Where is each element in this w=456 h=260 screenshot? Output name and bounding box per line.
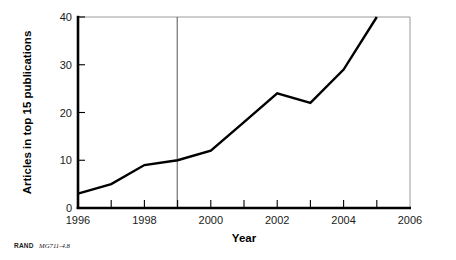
figure-credit-source: RAND (14, 242, 34, 249)
figure-container: 0 10 20 30 40 1996 1998 2000 2002 2004 2… (0, 0, 456, 260)
x-tick-label-2004: 2004 (331, 214, 355, 226)
x-tick-label-2000: 2000 (199, 214, 223, 226)
y-tick-label-0: 0 (66, 202, 72, 214)
x-tick-label-1996: 1996 (66, 214, 90, 226)
x-tick-label-2002: 2002 (265, 214, 289, 226)
x-tick-label-1998: 1998 (132, 214, 156, 226)
line-chart: 0 10 20 30 40 1996 1998 2000 2002 2004 2… (0, 0, 456, 260)
figure-credit-id: MG711-4.8 (38, 242, 71, 249)
y-axis-title: Articles in top 15 publications (21, 31, 33, 195)
x-axis-title: Year (232, 232, 257, 244)
x-tick-label-2006: 2006 (398, 214, 422, 226)
y-tick-label-10: 10 (60, 154, 72, 166)
y-tick-label-20: 20 (60, 107, 72, 119)
y-tick-label-30: 30 (60, 59, 72, 71)
y-tick-label-40: 40 (60, 11, 72, 23)
plot-area-background (78, 17, 410, 208)
